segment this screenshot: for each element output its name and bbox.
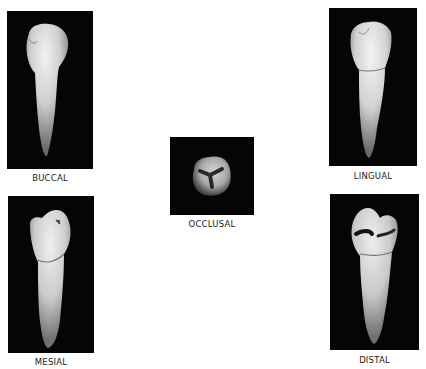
buccal-view-photo: [7, 11, 93, 169]
tooth-distal-image: [330, 194, 419, 350]
buccal-label: BUCCAL: [7, 173, 93, 183]
distal-view-photo: [330, 194, 419, 350]
occlusal-label: OCCLUSAL: [170, 219, 254, 229]
mesial-label: MESIAL: [8, 357, 94, 367]
lingual-view-photo: [329, 8, 417, 166]
distal-label: DISTAL: [330, 355, 419, 365]
tooth-buccal-image: [7, 11, 93, 169]
mesial-view-photo: [8, 196, 94, 353]
tooth-occlusal-image: [170, 137, 254, 215]
tooth-mesial-image: [8, 196, 94, 353]
lingual-label: LINGUAL: [329, 171, 417, 181]
tooth-lingual-image: [329, 8, 417, 166]
occlusal-view-photo: [170, 137, 254, 215]
